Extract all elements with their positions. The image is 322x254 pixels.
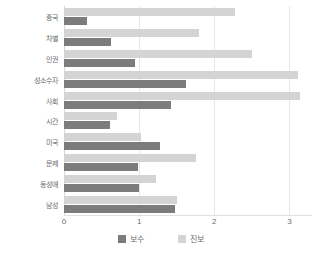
chart-legend: 보수진보 bbox=[0, 233, 322, 244]
y-axis-label: 인권 bbox=[0, 54, 58, 64]
y-axis-label: 남성 bbox=[0, 200, 58, 210]
bar-progressive bbox=[64, 154, 196, 162]
bar-conservative bbox=[64, 142, 160, 150]
bar-progressive bbox=[64, 92, 300, 100]
y-axis-label: 사회 bbox=[0, 96, 58, 106]
legend-swatch-icon bbox=[178, 235, 186, 243]
bar-progressive bbox=[64, 133, 141, 141]
legend-label: 진보 bbox=[190, 233, 204, 244]
x-axis-tick-label: 1 bbox=[137, 217, 141, 226]
x-axis-tick-label: 2 bbox=[212, 217, 216, 226]
y-axis-label: 문제 bbox=[0, 158, 58, 168]
bar-conservative bbox=[64, 163, 138, 171]
bar-group bbox=[64, 131, 312, 152]
bar-group bbox=[64, 6, 312, 27]
bar-chart: 중국차별인권성소수자사회시간미국문제동성애남성 0123 보수진보 bbox=[0, 0, 322, 254]
y-axis-label: 차별 bbox=[0, 33, 58, 43]
plot-area bbox=[64, 6, 312, 215]
bar-conservative bbox=[64, 38, 111, 46]
y-axis-label: 동성애 bbox=[0, 179, 58, 189]
legend-swatch-icon bbox=[118, 235, 126, 243]
bar-group bbox=[64, 69, 312, 90]
x-axis-tick-label: 3 bbox=[287, 217, 291, 226]
y-axis-label: 미국 bbox=[0, 137, 58, 147]
bar-group bbox=[64, 48, 312, 69]
legend-label: 보수 bbox=[130, 233, 144, 244]
bar-progressive bbox=[64, 50, 252, 58]
bar-conservative bbox=[64, 59, 135, 67]
bar-conservative bbox=[64, 101, 171, 109]
bar-group bbox=[64, 27, 312, 48]
x-axis-line bbox=[64, 215, 312, 216]
bar-conservative bbox=[64, 205, 175, 213]
y-axis-label: 중국 bbox=[0, 12, 58, 22]
bar-group bbox=[64, 194, 312, 215]
legend-item[interactable]: 보수 bbox=[118, 233, 144, 244]
bar-group bbox=[64, 173, 312, 194]
bar-progressive bbox=[64, 71, 298, 79]
bar-progressive bbox=[64, 29, 199, 37]
bar-group bbox=[64, 90, 312, 111]
bar-group bbox=[64, 111, 312, 132]
bar-progressive bbox=[64, 112, 117, 120]
legend-item[interactable]: 진보 bbox=[178, 233, 204, 244]
y-axis-label: 시간 bbox=[0, 116, 58, 126]
y-axis-label: 성소수자 bbox=[0, 75, 58, 85]
x-axis-tick-label: 0 bbox=[62, 217, 66, 226]
bar-group bbox=[64, 152, 312, 173]
bar-progressive bbox=[64, 175, 156, 183]
bar-progressive bbox=[64, 8, 235, 16]
bar-conservative bbox=[64, 121, 110, 129]
bar-conservative bbox=[64, 17, 87, 25]
bar-progressive bbox=[64, 196, 177, 204]
bar-conservative bbox=[64, 80, 186, 88]
bar-conservative bbox=[64, 184, 139, 192]
